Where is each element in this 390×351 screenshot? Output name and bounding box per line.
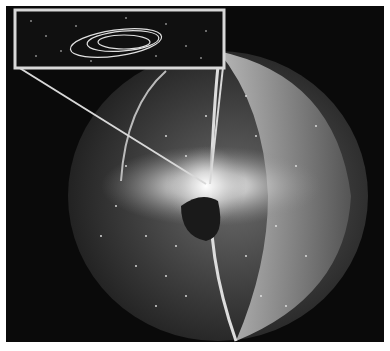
inset-box [15, 10, 224, 68]
illustration [6, 6, 384, 342]
oort-cloud-illustration [6, 6, 384, 342]
